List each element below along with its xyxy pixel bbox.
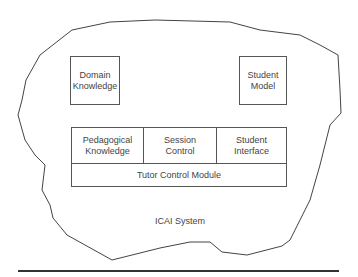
student-interface-box: Student Interface bbox=[216, 127, 287, 164]
domain-knowledge-box: Domain Knowledge bbox=[70, 56, 120, 105]
student-model-box: Student Model bbox=[239, 56, 287, 105]
divider-rule bbox=[18, 270, 339, 272]
session-control-box: Session Control bbox=[143, 127, 217, 164]
system-label: ICAI System bbox=[130, 216, 230, 226]
pedagogical-knowledge-box: Pedagogical Knowledge bbox=[71, 127, 144, 164]
tutor-control-module-box: Tutor Control Module bbox=[71, 163, 287, 187]
